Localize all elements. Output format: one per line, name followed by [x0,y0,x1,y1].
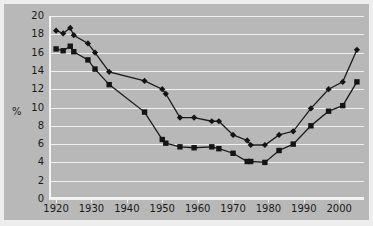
y-axis-title: % [12,107,22,117]
y-tick-label: 2 [38,176,44,186]
gridline [49,199,364,200]
y-tick-label: 4 [38,157,44,167]
data-point-square [216,146,221,151]
x-tick-label: 1980 [256,204,281,214]
x-tick-label: 1970 [220,204,245,214]
y-tick-label: 6 [38,139,44,149]
data-point-square [354,79,359,84]
plot-area [49,16,364,199]
chart-root: % 02468101214161820 19201930194019501960… [0,0,373,226]
y-tick-label: 18 [31,29,44,39]
y-tick-label: 16 [31,48,44,58]
series-line-square [56,46,357,162]
y-tick-label: 12 [31,84,44,94]
data-point-square [262,160,267,165]
x-tick-label: 1950 [150,204,175,214]
data-point-square [191,145,196,150]
data-point-diamond [53,28,59,34]
data-point-square [276,148,281,153]
data-point-diamond [141,78,147,84]
y-tick-label: 20 [31,11,44,21]
data-point-square [68,43,73,48]
data-point-square [85,57,90,62]
data-point-diamond [340,79,346,85]
x-tick-label: 1960 [185,204,210,214]
series-layer [49,16,364,199]
chart-panel: % 02468101214161820 19201930194019501960… [4,4,369,220]
data-point-square [308,123,313,128]
data-point-square [106,82,111,87]
data-point-square [177,144,182,149]
y-tick-label: 8 [38,121,44,131]
data-point-square [291,141,296,146]
data-point-square [92,66,97,71]
data-point-diamond [177,114,183,120]
x-tick-label: 1920 [43,204,68,214]
data-point-diamond [191,114,197,120]
data-point-square [53,46,58,51]
y-tick-label: 14 [31,66,44,76]
data-point-square [71,49,76,54]
x-tick-label: 1940 [114,204,139,214]
x-tick-label: 1990 [291,204,316,214]
x-tick-label: 1930 [79,204,104,214]
data-point-square [142,109,147,114]
data-point-diamond [209,118,215,124]
data-point-square [248,159,253,164]
data-point-diamond [71,32,77,38]
data-point-square [60,48,65,53]
data-point-square [326,108,331,113]
data-point-square [209,144,214,149]
data-point-diamond [354,47,360,53]
data-point-square [340,103,345,108]
x-tick-label: 2000 [326,204,351,214]
y-tick-label: 10 [31,103,44,113]
data-point-square [230,151,235,156]
data-point-square [163,140,168,145]
